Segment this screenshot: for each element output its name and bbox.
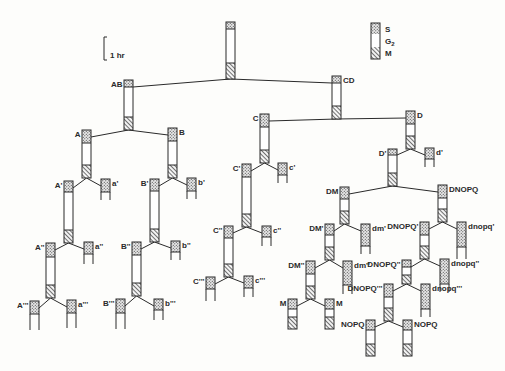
cell-label-M_right: M bbox=[336, 299, 343, 308]
cell-label-dnopq2: dnopq'' bbox=[451, 259, 479, 268]
m-phase-segment bbox=[226, 63, 235, 79]
scale-bracket bbox=[104, 37, 107, 60]
cell-d1: d' bbox=[425, 148, 443, 168]
division-link-CD-C bbox=[269, 119, 337, 121]
s-phase-segment bbox=[325, 224, 334, 235]
division-link-C1-c2 bbox=[247, 227, 263, 233]
cell-a3: a''' bbox=[67, 300, 88, 329]
cell-root bbox=[226, 22, 235, 79]
s-phase-segment bbox=[30, 301, 39, 314]
division-link-DNOPQ3-NOPQ_right bbox=[389, 321, 404, 327]
cell-CD: CD bbox=[332, 76, 355, 120]
division-link-DNOPQ-DNOPQ1 bbox=[429, 222, 443, 229]
cell-label-A: A bbox=[75, 130, 81, 139]
division-link-DNOPQ2-dnopq3 bbox=[407, 284, 422, 291]
cell-c3: c''' bbox=[244, 276, 265, 298]
s-phase-segment bbox=[425, 148, 434, 159]
s-phase-segment bbox=[187, 178, 196, 191]
g2-phase-segment bbox=[388, 155, 397, 173]
cell-label-CD: CD bbox=[343, 76, 355, 85]
s-phase-segment bbox=[278, 163, 287, 175]
cell-DNOPQ: DNOPQ bbox=[438, 185, 478, 223]
m-phase-segment bbox=[260, 150, 269, 163]
s-phase-segment bbox=[406, 111, 415, 124]
scale-bar-label: 1 hr bbox=[110, 51, 125, 60]
m-phase-segment bbox=[124, 117, 133, 130]
cell-label-B2: B'' bbox=[121, 242, 131, 251]
cell-D: D bbox=[406, 111, 423, 150]
g2-phase-segment bbox=[132, 255, 141, 283]
division-link-C-c1 bbox=[265, 163, 279, 170]
cell-label-B3: B''' bbox=[103, 299, 115, 308]
s-phase-segment bbox=[242, 164, 251, 177]
cell-label-DNOPQ1: DNOPQ' bbox=[387, 222, 418, 231]
cell-B1: B' bbox=[141, 179, 159, 243]
g2-phase-segment bbox=[403, 330, 412, 344]
cell-C3: C''' bbox=[193, 277, 215, 302]
cell-label-C1: C' bbox=[233, 164, 241, 173]
cell-C1: C' bbox=[233, 164, 251, 228]
cell-label-dnopq1: dnopq' bbox=[468, 222, 494, 231]
legend-swatch-m bbox=[371, 47, 380, 59]
s-phase-segment bbox=[226, 22, 235, 29]
m-phase-segment bbox=[325, 247, 334, 260]
cell-DNOPQ1: DNOPQ' bbox=[387, 222, 429, 260]
s-phase-segment bbox=[260, 114, 269, 127]
legend-label-m: M bbox=[385, 49, 392, 58]
division-link-D1-DM bbox=[349, 186, 393, 194]
cell-b3: b''' bbox=[154, 299, 176, 321]
cell-label-dnopq3: dnopq''' bbox=[432, 284, 462, 293]
division-link-B-B1 bbox=[159, 178, 173, 186]
cell-label-b2: b'' bbox=[182, 241, 191, 250]
g2-phase-segment bbox=[420, 235, 429, 246]
m-phase-segment bbox=[366, 344, 375, 356]
g2-phase-segment bbox=[124, 87, 133, 117]
g2-phase-segment bbox=[402, 267, 411, 275]
cell-label-AB: AB bbox=[111, 80, 123, 89]
m-phase-segment bbox=[438, 209, 447, 222]
m-phase-segment bbox=[306, 286, 315, 299]
s-phase-segment bbox=[366, 320, 375, 330]
g2-phase-segment bbox=[260, 127, 269, 150]
m-phase-segment bbox=[224, 264, 233, 277]
cell-label-c3: c''' bbox=[255, 276, 265, 285]
cell-label-a2: a'' bbox=[95, 242, 103, 251]
m-phase-segment bbox=[132, 283, 141, 296]
s-phase-segment bbox=[150, 179, 159, 191]
m-phase-segment bbox=[403, 344, 412, 356]
cell-B2: B'' bbox=[121, 242, 141, 297]
s-phase-segment bbox=[171, 241, 180, 252]
division-link-A1-a2 bbox=[69, 243, 85, 249]
s-phase-segment bbox=[402, 260, 411, 267]
s-phase-segment bbox=[421, 284, 430, 309]
s-phase-segment bbox=[288, 299, 297, 309]
s-phase-segment bbox=[388, 149, 397, 155]
division-link-B1-b2 bbox=[155, 242, 172, 248]
cell-label-b3: b''' bbox=[165, 299, 176, 308]
phase-legend: SG2M bbox=[371, 23, 395, 59]
g2-phase-segment bbox=[242, 177, 251, 214]
g2-phase-segment bbox=[46, 257, 55, 285]
cell-A: A bbox=[75, 130, 91, 179]
cell-bars: ABCDABCDA'a'B'b'C'c'D'd'A''a''B''b''C''c… bbox=[17, 22, 494, 356]
cell-D1: D' bbox=[379, 149, 397, 187]
cell-label-A3: A''' bbox=[17, 301, 29, 310]
m-phase-segment bbox=[340, 211, 349, 224]
m-phase-segment bbox=[420, 246, 429, 259]
cell-label-d1: d' bbox=[436, 148, 443, 157]
cell-label-B: B bbox=[179, 128, 185, 137]
division-link-DM-dm1 bbox=[345, 224, 362, 231]
cell-label-DNOPQ2: DNOPQ'' bbox=[367, 260, 400, 269]
g2-phase-segment bbox=[168, 141, 177, 165]
division-link-B-b1 bbox=[173, 178, 188, 185]
m-phase-segment bbox=[288, 317, 297, 329]
division-link-DNOPQ-dnopq1 bbox=[443, 222, 458, 229]
cell-C2: C'' bbox=[213, 226, 233, 278]
cell-AB: AB bbox=[111, 80, 133, 131]
s-phase-segment bbox=[67, 300, 76, 313]
g2-phase-segment bbox=[325, 309, 334, 317]
s-phase-segment bbox=[206, 277, 215, 289]
m-phase-segment bbox=[388, 173, 397, 186]
legend-label-s: S bbox=[385, 25, 391, 34]
m-phase-segment bbox=[384, 308, 393, 321]
